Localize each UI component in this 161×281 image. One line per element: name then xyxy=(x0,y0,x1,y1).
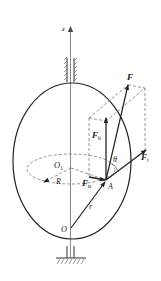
force-fb-label: Fb xyxy=(91,130,101,141)
force-f-label: F xyxy=(126,72,133,82)
angle-arc xyxy=(110,163,118,171)
force-diagram: z xyxy=(0,0,161,281)
o1-to-a-line xyxy=(71,168,106,180)
center-o1-label: O1 xyxy=(54,160,63,171)
position-r-label: r xyxy=(89,202,93,211)
force-fn-label: Fn xyxy=(81,178,91,189)
force-ft-label: Ft xyxy=(140,152,149,163)
radius-r-label: R xyxy=(55,177,61,186)
z-axis-label: z xyxy=(61,25,65,33)
angle-theta-label: θ xyxy=(113,155,117,164)
force-fn-arrow xyxy=(89,177,105,180)
origin-o-label: O xyxy=(61,225,67,234)
point-a-label: A xyxy=(107,182,113,191)
